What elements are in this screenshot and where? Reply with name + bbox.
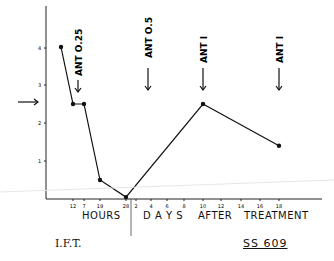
data-points [59, 45, 281, 200]
svg-text:14: 14 [238, 203, 244, 209]
y-ticks: 1234 [38, 45, 46, 164]
svg-text:12: 12 [70, 203, 76, 209]
ift-label: I.F.T. [55, 237, 81, 250]
annotations: ANT O.25ANT O.5ANT IANT I [74, 17, 285, 92]
x-label-days: D A Y S [143, 210, 183, 221]
svg-text:ANT O.25: ANT O.25 [74, 29, 84, 76]
scan-artifact [0, 180, 334, 192]
subject-label: SS 609 [243, 237, 287, 250]
svg-text:6: 6 [165, 203, 168, 209]
svg-text:28: 28 [123, 203, 129, 209]
svg-text:2: 2 [134, 203, 137, 209]
x-label-hours: HOURS [82, 210, 121, 221]
svg-text:3: 3 [38, 82, 41, 88]
svg-text:2: 2 [38, 120, 41, 126]
x-label-after: AFTER [198, 210, 232, 221]
x-ticks: 127192824681012141618 [70, 199, 282, 209]
svg-text:10: 10 [200, 203, 206, 209]
line-chart: 1234 127192824681012141618 ANT O.25ANT O… [0, 0, 334, 261]
svg-text:ANT I: ANT I [199, 36, 209, 63]
x-label-treatment: TREATMENT [244, 210, 309, 221]
svg-text:8: 8 [182, 203, 185, 209]
data-line [61, 47, 279, 197]
svg-text:12: 12 [218, 203, 224, 209]
svg-text:7: 7 [82, 203, 85, 209]
right-arrow-icon [18, 99, 38, 105]
svg-text:18: 18 [276, 203, 282, 209]
svg-text:ANT I: ANT I [275, 36, 285, 63]
svg-text:4: 4 [149, 203, 152, 209]
svg-text:ANT O.5: ANT O.5 [144, 17, 154, 58]
svg-text:16: 16 [257, 203, 263, 209]
svg-text:4: 4 [38, 45, 41, 51]
svg-text:19: 19 [97, 203, 103, 209]
svg-text:1: 1 [38, 158, 41, 164]
